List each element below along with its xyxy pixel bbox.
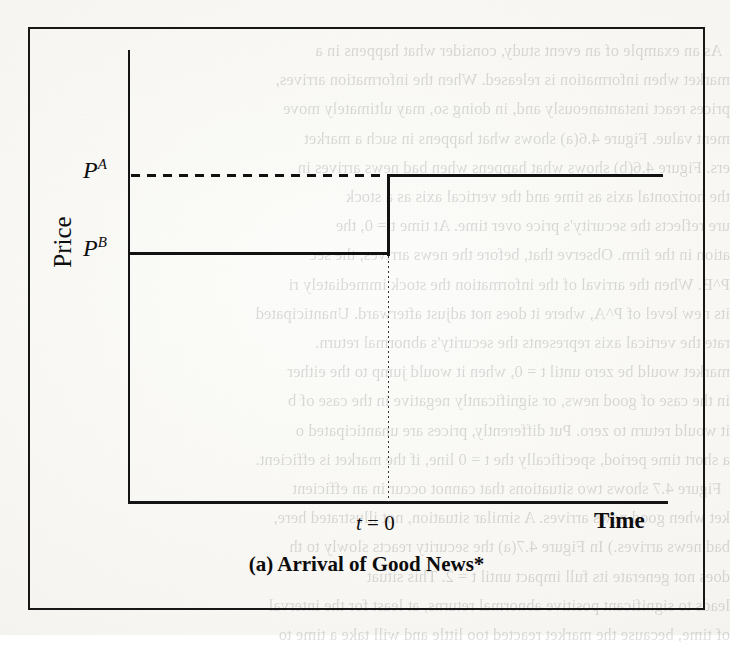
- figure-caption: (a) Arrival of Good News*: [28, 552, 705, 577]
- event-time-dotted-line: [388, 256, 389, 502]
- price-label-pb-base: P: [83, 235, 98, 261]
- price-label-pb: PB: [83, 234, 107, 262]
- x-axis-label: Time: [594, 508, 645, 534]
- price-label-pa: PA: [83, 156, 107, 184]
- price-label-pa-superscript: A: [98, 156, 108, 172]
- price-label-pa-base: P: [83, 157, 98, 183]
- price-path-before-news: [129, 252, 390, 255]
- y-axis-label: Price: [49, 177, 77, 307]
- event-time-label: t = 0: [356, 511, 395, 536]
- pa-dashed-guide-line: [131, 174, 389, 177]
- price-label-pb-superscript: B: [98, 234, 108, 250]
- price-path-after-news: [389, 174, 663, 177]
- y-axis-line: [128, 50, 130, 504]
- x-axis-line: [128, 501, 668, 504]
- price-jump-at-event: [387, 174, 390, 256]
- event-time-equation: = 0: [362, 511, 395, 535]
